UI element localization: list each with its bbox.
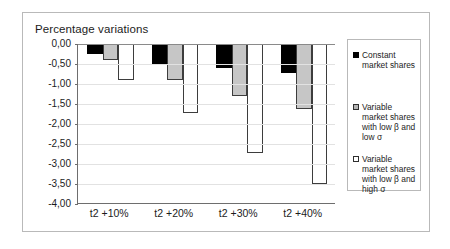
- legend-item[interactable]: Constant market shares: [353, 50, 419, 70]
- bar: [296, 44, 312, 109]
- y-axis-tick-label: -1,50: [48, 99, 71, 109]
- y-axis-tick: [75, 44, 78, 45]
- y-axis-tick: [75, 104, 78, 105]
- legend-swatch-icon: [353, 156, 359, 162]
- gridline: [78, 144, 335, 145]
- gridline: [78, 84, 335, 85]
- legend-swatch-icon: [353, 104, 359, 110]
- bar: [103, 44, 119, 60]
- x-axis-category-label: t2 +40%: [283, 207, 322, 219]
- bar: [87, 44, 103, 54]
- gridline: [78, 164, 335, 165]
- y-axis-tick: [75, 184, 78, 185]
- bar: [232, 44, 248, 96]
- bar: [118, 44, 134, 80]
- legend-item-label: Variable market shares with low β and hi…: [362, 154, 419, 194]
- y-axis-tick-label: -3,50: [48, 179, 71, 189]
- y-axis-labels: 0,00-0,50-1,00-1,50-2,00-2,50-3,00-3,50-…: [23, 44, 75, 204]
- y-axis-tick-label: -3,00: [48, 159, 71, 169]
- y-axis-tick-label: -2,50: [48, 139, 71, 149]
- y-axis-tick: [75, 164, 78, 165]
- bar: [247, 44, 263, 153]
- y-axis-tick: [75, 124, 78, 125]
- x-axis-category-label: t2 +10%: [90, 207, 129, 219]
- legend-item-label: Constant market shares: [362, 50, 419, 70]
- legend-item[interactable]: Variable market shares with low β and lo…: [353, 102, 419, 142]
- bar: [152, 44, 168, 65]
- gridline: [78, 124, 335, 125]
- y-axis-tick: [75, 64, 78, 65]
- bar: [167, 44, 183, 80]
- y-axis-tick: [75, 204, 78, 205]
- bar: [312, 44, 328, 184]
- gridline: [78, 104, 335, 105]
- y-axis-tick-label: -2,00: [48, 119, 71, 129]
- y-axis-tick: [75, 144, 78, 145]
- gridline: [78, 64, 335, 65]
- bar: [281, 44, 297, 73]
- y-axis-tick-label: -4,00: [48, 199, 71, 209]
- legend-item-label: Variable market shares with low β and lo…: [362, 102, 419, 142]
- x-axis-category-label: t2 +20%: [154, 207, 193, 219]
- y-axis-tick-label: -0,50: [48, 59, 71, 69]
- gridline: [78, 44, 335, 45]
- legend-swatch-icon: [353, 52, 359, 58]
- chart-frame: Percentage variations 0,00-0,50-1,00-1,5…: [22, 12, 430, 232]
- y-axis-tick-label: -1,00: [48, 79, 71, 89]
- gridline: [78, 184, 335, 185]
- y-axis-tick: [75, 84, 78, 85]
- plot-area: [77, 44, 335, 204]
- x-axis-labels: t2 +10%t2 +20%t2 +30%t2 +40%: [77, 207, 335, 225]
- bar: [183, 44, 199, 113]
- chart-legend: Constant market sharesVariable market sh…: [347, 39, 421, 191]
- x-axis-category-label: t2 +30%: [219, 207, 258, 219]
- y-axis-tick-label: 0,00: [52, 39, 71, 49]
- legend-item[interactable]: Variable market shares with low β and hi…: [353, 154, 419, 194]
